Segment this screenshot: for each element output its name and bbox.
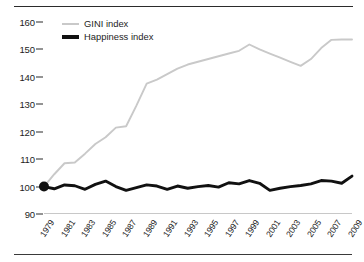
x-axis-tick-label: 2005 [305,218,324,239]
legend-item-happiness-index: Happiness index [62,30,153,43]
x-axis-tick-label: 1991 [161,218,180,239]
y-axis-tick-label: 110 [20,154,35,165]
legend-label-happiness-index: Happiness index [84,31,153,42]
x-axis-tick-label: 1987 [120,218,139,239]
x-axis-tick-label: 1979 [38,218,57,239]
x-axis-tick-label: 2001 [264,218,283,239]
y-axis-tick-label: 140 [19,71,35,82]
y-axis-tick-label: 120 [19,126,35,137]
x-axis-tick-label: 1999 [243,218,262,239]
y-axis-tick [36,214,43,215]
x-axis-tick-label: 1983 [79,218,98,239]
x-axis-tick-label: 1985 [99,218,118,239]
x-axis-tick-label: 1981 [58,218,77,239]
bottom-divider-rule [14,254,352,255]
x-axis-tick-label: 1995 [202,218,221,239]
legend-label-gini-index: GINI index [84,18,128,29]
y-axis-tick-label: 90 [25,209,35,220]
x-axis-tick-label: 1997 [223,218,242,239]
x-axis-tick-label: 2009 [346,218,364,239]
x-axis-tick-label: 2003 [284,218,303,239]
series-line-happiness-index [44,176,352,190]
y-axis-tick-label: 100 [19,181,35,192]
x-axis-tick-label: 1993 [181,218,200,239]
y-axis-tick-label: 150 [19,44,35,55]
y-axis-tick [36,22,43,23]
y-axis-tick [36,104,43,105]
legend-line-swatch-happiness-icon [62,35,79,39]
chart-legend: GINI index Happiness index [62,17,153,43]
y-axis-tick [36,49,43,50]
data-series-layer [44,22,352,214]
y-axis-tick-label: 130 [19,99,35,110]
legend-item-gini-index: GINI index [62,17,153,30]
top-divider-rule [14,6,353,7]
series-line-gini-index [44,40,352,187]
x-axis-tick-label: 1989 [140,218,159,239]
y-axis-tick-label: 160 [19,17,35,28]
x-axis-tick-label: 2007 [325,218,344,239]
legend-line-swatch-gini-icon [62,23,79,25]
origin-marker [39,182,49,192]
y-axis-tick [36,159,43,160]
y-axis-tick [36,131,43,132]
y-axis-tick [36,76,43,77]
plot-area: 90100110120130140150160 1979198119831985… [44,22,352,214]
